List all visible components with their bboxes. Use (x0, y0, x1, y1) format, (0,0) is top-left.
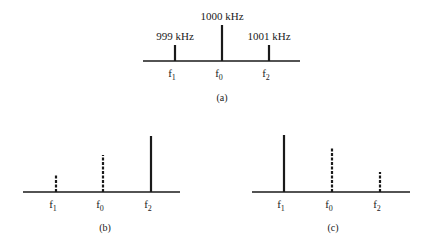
panel-caption: (b) (99, 222, 111, 234)
frequency-value-f2: 1001 kHz (247, 30, 290, 42)
panel-caption: (a) (216, 92, 227, 104)
frequency-label-f0: f0 (96, 198, 104, 213)
spectrum-diagram: f1999 kHzf01000 kHzf21001 kHz(a)f1f0f2(b… (0, 0, 426, 247)
frequency-label-f1: f1 (49, 198, 57, 213)
panel-a: f1999 kHzf01000 kHzf21001 kHz(a) (143, 10, 300, 104)
frequency-value-f1: 999 kHz (156, 30, 194, 42)
frequency-label-f0: f0 (325, 198, 333, 213)
panel-b: f1f0f2(b) (23, 136, 180, 234)
frequency-label-f1: f1 (277, 198, 285, 213)
frequency-value-f0: 1000 kHz (200, 10, 243, 22)
frequency-label-f0: f0 (215, 67, 223, 82)
frequency-label-f2: f2 (262, 67, 270, 82)
frequency-label-f1: f1 (168, 67, 176, 82)
panel-c: f1f0f2(c) (252, 135, 410, 234)
panel-caption: (c) (327, 222, 338, 234)
frequency-label-f2: f2 (373, 198, 381, 213)
frequency-label-f2: f2 (144, 198, 152, 213)
